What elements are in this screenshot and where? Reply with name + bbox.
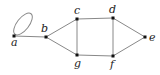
edge-c-d xyxy=(77,18,113,19)
node-label-g: g xyxy=(74,57,81,70)
node-label-a: a xyxy=(11,36,18,49)
node-e xyxy=(144,36,147,39)
edge-b-c xyxy=(46,19,77,37)
node-label-e: e xyxy=(149,31,156,44)
graph-diagram: abcdefg xyxy=(0,0,160,75)
node-label-b: b xyxy=(41,22,48,35)
node-b xyxy=(45,36,48,39)
node-label-c: c xyxy=(74,4,80,17)
edge-d-e xyxy=(113,18,145,37)
loop-edge-a xyxy=(10,10,35,38)
node-c xyxy=(76,18,79,21)
edge-b-g xyxy=(46,37,77,55)
node-d xyxy=(112,17,115,20)
node-label-f: f xyxy=(109,58,116,71)
edge-f-e xyxy=(113,37,145,56)
edge-a-b xyxy=(14,36,46,37)
edge-g-f xyxy=(77,55,113,56)
node-label-d: d xyxy=(109,3,116,16)
